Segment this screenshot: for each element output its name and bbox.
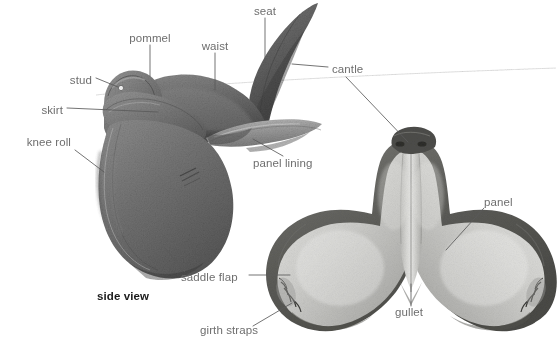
label-pommel: pommel xyxy=(129,32,171,45)
label-cantle: cantle xyxy=(332,63,363,76)
leader-stud xyxy=(96,78,118,87)
leader-cantle-side xyxy=(292,64,328,67)
label-knee-roll: knee roll xyxy=(27,136,71,149)
label-waist: waist xyxy=(202,40,229,53)
leader-skirt xyxy=(67,108,158,112)
label-girth-straps: girth straps xyxy=(200,324,258,337)
girth-straps-detail xyxy=(273,275,301,312)
leader-panel-lining xyxy=(253,139,283,156)
saddle-illustration xyxy=(0,0,557,355)
leader-saddle-flap-side xyxy=(165,248,185,272)
label-stud: stud xyxy=(70,74,92,87)
leader-girth-straps xyxy=(253,303,292,326)
label-panel: panel xyxy=(484,196,513,209)
leader-panel xyxy=(446,208,484,250)
label-panel-lining: panel lining xyxy=(253,157,312,170)
leader-cantle-bottom xyxy=(346,77,408,142)
label-saddle-flap: saddle flap xyxy=(181,271,238,284)
leader-knee-roll xyxy=(75,150,104,172)
stud-marker xyxy=(118,85,123,90)
label-seat: seat xyxy=(254,5,276,18)
label-skirt: skirt xyxy=(41,104,63,117)
label-gullet: gullet xyxy=(395,306,423,319)
saddle-anatomy-figure: pommel waist seat stud skirt knee roll c… xyxy=(0,0,557,355)
caption-side-view: side view xyxy=(97,290,149,303)
girth-straps-detail-right xyxy=(521,275,549,312)
leader-lines xyxy=(67,18,484,326)
